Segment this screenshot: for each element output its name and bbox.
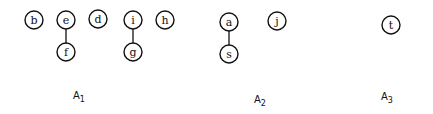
- node-label: t: [389, 19, 394, 32]
- group-label-subscript: 2: [261, 99, 266, 108]
- node-h: h: [156, 11, 174, 29]
- node-b: b: [25, 11, 43, 29]
- group-label-a1: A1: [73, 90, 85, 104]
- node-label: d: [94, 13, 101, 26]
- node-label: e: [63, 14, 70, 27]
- node-i: i: [124, 11, 142, 29]
- node-label: i: [131, 14, 135, 27]
- node-f: f: [57, 43, 75, 61]
- node-a: a: [220, 13, 238, 31]
- node-s: s: [220, 45, 238, 63]
- group-label-name: A: [381, 91, 388, 102]
- node-j: j: [268, 12, 286, 30]
- node-g: g: [124, 43, 142, 61]
- node-label: a: [226, 16, 233, 29]
- group-label-subscript: 3: [388, 96, 393, 105]
- node-label: s: [226, 48, 232, 61]
- node-label: h: [161, 14, 168, 27]
- group-label-a2: A2: [254, 94, 266, 108]
- forest-diagram: befdighasjt A1 A2 A3: [0, 0, 433, 114]
- node-d: d: [89, 10, 107, 28]
- node-e: e: [57, 11, 75, 29]
- node-t: t: [382, 16, 400, 34]
- group-label-name: A: [73, 90, 80, 101]
- node-label: g: [129, 46, 136, 59]
- group-label-a3: A3: [381, 91, 393, 105]
- diagram-graphics: befdighasjt: [0, 0, 433, 114]
- node-label: b: [30, 14, 37, 27]
- group-label-subscript: 1: [80, 95, 85, 104]
- group-label-name: A: [254, 94, 261, 105]
